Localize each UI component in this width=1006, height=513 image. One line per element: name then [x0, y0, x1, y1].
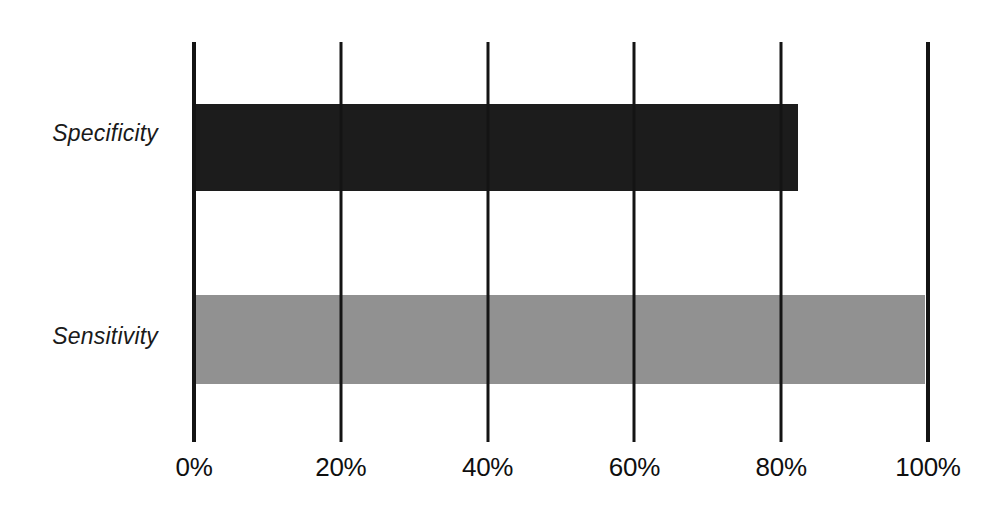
gridline-40	[486, 42, 489, 428]
x-tick-label-40: 40%	[462, 452, 513, 483]
axis-tick-20	[339, 428, 342, 442]
plot-area	[194, 42, 928, 428]
category-label-specificity: Specificity	[0, 120, 176, 147]
gridline-80	[780, 42, 783, 428]
axis-tick-80	[780, 428, 783, 442]
gridline-60	[633, 42, 636, 428]
category-label-sensitivity: Sensitivity	[0, 323, 176, 350]
gridline-0	[192, 42, 196, 428]
x-tick-label-60: 60%	[609, 452, 660, 483]
axis-tick-0	[192, 428, 196, 442]
axis-tick-40	[486, 428, 489, 442]
gridline-20	[339, 42, 342, 428]
x-tick-label-80: 80%	[756, 452, 807, 483]
axis-tick-60	[633, 428, 636, 442]
bar-sensitivity	[194, 295, 925, 384]
gridline-100	[926, 42, 930, 428]
x-tick-label-0: 0%	[176, 452, 213, 483]
x-tick-label-100: 100%	[895, 452, 960, 483]
bar-specificity	[194, 104, 798, 191]
axis-tick-100	[926, 428, 930, 442]
x-tick-label-20: 20%	[315, 452, 366, 483]
bar-chart: Specificity Sensitivity 0% 20% 40% 60% 8…	[0, 0, 1006, 513]
